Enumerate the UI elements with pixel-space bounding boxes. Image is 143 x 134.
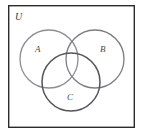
universal-set-label: U [15, 12, 22, 22]
set-label-c: C [67, 93, 73, 102]
set-label-b: B [100, 45, 106, 54]
venn-diagram-figure: U A B C [0, 0, 143, 134]
universal-set-rectangle [9, 6, 135, 128]
set-label-a: A [35, 45, 41, 54]
